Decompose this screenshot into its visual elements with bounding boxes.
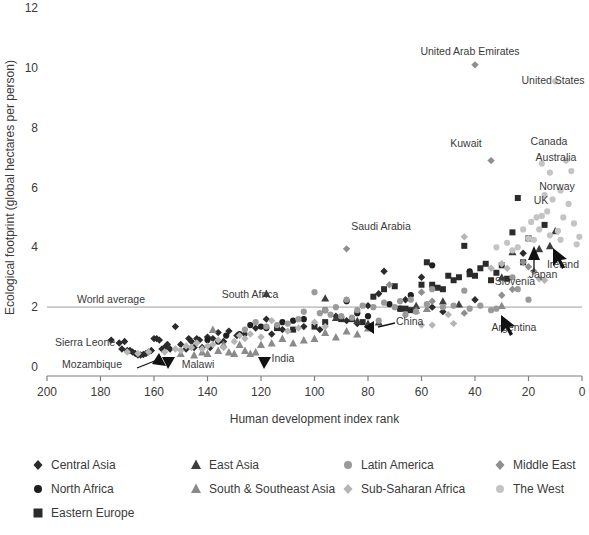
y-tick-label: 6: [31, 181, 38, 195]
chart-root: 024681012Ecological footprint (global he…: [0, 0, 589, 535]
annotation-label: India: [272, 352, 295, 364]
data-point: [558, 237, 564, 243]
data-point: [311, 289, 317, 295]
data-point: [440, 286, 446, 292]
data-point: [247, 322, 253, 328]
y-tick-label: 10: [25, 61, 39, 75]
data-point: [343, 245, 350, 252]
annotation-label: Mozambique: [62, 358, 122, 370]
y-tick-label: 8: [31, 121, 38, 135]
data-point: [509, 247, 515, 253]
data-point: [515, 195, 521, 201]
data-point: [429, 262, 435, 268]
data-point: [322, 307, 328, 313]
data-point: [290, 327, 296, 333]
data-point: [332, 333, 340, 340]
legend-marker-square-icon: [34, 509, 43, 518]
data-point: [392, 283, 398, 289]
legend-marker-diamond-icon: [344, 484, 353, 494]
x-tick-label: 120: [251, 385, 271, 399]
legend-label: East Asia: [209, 458, 259, 472]
x-axis-title: Human development index rank: [230, 412, 400, 426]
x-tick-label: 80: [361, 385, 375, 399]
data-point: [253, 319, 259, 325]
data-point: [429, 286, 435, 292]
data-point: [285, 321, 291, 327]
x-tick-label: 40: [468, 385, 482, 399]
data-point: [295, 316, 301, 322]
legend-item[interactable]: East Asia: [191, 458, 259, 472]
data-point: [343, 327, 351, 334]
legend-item[interactable]: Central Asia: [34, 458, 117, 472]
data-point: [290, 318, 296, 324]
legend-item[interactable]: South & Southeast Asia: [191, 482, 335, 496]
annotation-label: Argentina: [492, 321, 537, 333]
legend-item[interactable]: Eastern Europe: [34, 506, 135, 520]
data-point: [555, 228, 561, 234]
data-point: [263, 324, 269, 330]
data-point: [515, 244, 521, 250]
data-point: [493, 306, 499, 312]
data-point: [429, 321, 436, 328]
data-point: [204, 337, 210, 343]
data-point: [121, 338, 128, 345]
annotation-label: World average: [77, 293, 145, 305]
data-point: [333, 304, 339, 310]
data-point: [539, 213, 545, 219]
data-point: [546, 242, 554, 249]
legend-item[interactable]: Latin America: [344, 458, 434, 472]
data-point: [472, 273, 478, 279]
data-point: [408, 297, 414, 303]
data-point: [533, 214, 539, 220]
data-point: [571, 220, 577, 226]
data-points-group: [108, 61, 583, 359]
legend-item[interactable]: Sub-Saharan Africa: [344, 482, 466, 496]
annotation-label: United States: [521, 74, 584, 86]
data-point: [450, 320, 457, 327]
legend-item[interactable]: North Africa: [34, 482, 114, 496]
data-point: [268, 330, 275, 337]
data-point: [424, 301, 430, 307]
data-point: [504, 240, 510, 246]
data-point: [461, 288, 467, 294]
data-point: [386, 301, 392, 307]
data-point: [467, 306, 473, 312]
annotations-group: United Arab EmiratesUnited StatesKuwaitC…: [55, 45, 585, 370]
data-point: [519, 250, 526, 257]
legend-label: Latin America: [361, 458, 434, 472]
data-point: [440, 304, 446, 310]
legend-marker-triangle-icon: [191, 460, 201, 470]
legend-marker-circle-icon: [344, 461, 352, 469]
data-point: [380, 268, 387, 275]
data-point: [360, 319, 366, 325]
data-point: [549, 196, 555, 202]
annotation-label: United Arab Emirates: [420, 45, 519, 57]
data-point: [370, 294, 376, 300]
data-point: [381, 286, 387, 292]
x-tick-label: 100: [304, 385, 324, 399]
y-axis-title: Ecological footprint (global hectares pe…: [3, 60, 17, 315]
data-point: [461, 233, 468, 240]
data-point: [172, 345, 179, 352]
legend-item[interactable]: The West: [496, 482, 565, 496]
annotation-label: China: [396, 315, 424, 327]
data-point: [268, 339, 276, 346]
data-point: [568, 168, 574, 174]
data-point: [560, 214, 566, 220]
data-point: [223, 332, 229, 338]
data-point: [488, 307, 494, 313]
x-tick-label: 180: [90, 385, 110, 399]
data-point: [365, 313, 371, 319]
data-point: [311, 335, 319, 342]
data-point: [301, 316, 307, 322]
annotation-label: South Africa: [222, 288, 279, 300]
data-point: [477, 265, 483, 271]
annotation-label: Norway: [539, 180, 575, 192]
x-tick-label: 60: [415, 385, 429, 399]
legend-label: Middle East: [513, 458, 576, 472]
y-tick-label: 2: [31, 300, 38, 314]
legend-marker-diamond-icon: [34, 460, 43, 470]
y-tick-label: 12: [25, 1, 39, 15]
legend-item[interactable]: Middle East: [496, 458, 577, 472]
annotation-label: Canada: [531, 135, 568, 147]
